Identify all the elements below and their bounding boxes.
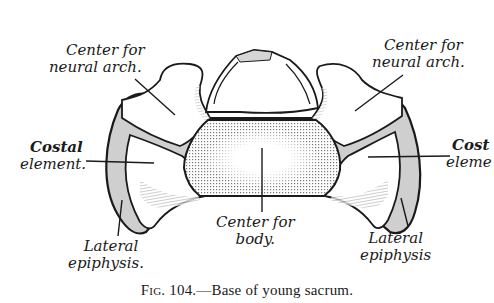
label-lateral-right-line1: Lateral <box>360 230 431 247</box>
label-lateral-right-line2: epiphysis <box>360 247 431 264</box>
label-costal-left-line1: Costal <box>20 139 86 156</box>
label-neural-arch-left-line1: Center for <box>46 42 145 59</box>
label-costal-left: Costal element. <box>20 139 86 173</box>
label-neural-arch-left: Center for neural arch. <box>46 42 145 76</box>
label-lateral-left-line1: Lateral <box>68 238 144 255</box>
caption-text: —Base of young sacrum. <box>196 282 353 298</box>
caption-number: 104. <box>169 282 196 298</box>
label-neural-arch-right-line1: Center for <box>372 37 465 54</box>
label-lateral-left-line2: epiphysis. <box>68 255 144 272</box>
label-body-center: Center for body. <box>216 214 295 248</box>
label-neural-arch-right-line2: neural arch. <box>372 54 465 71</box>
label-costal-right-line1: Cost <box>446 137 492 154</box>
caption-prefix: Fig. <box>141 282 166 298</box>
label-body-line1: Center for <box>216 214 295 231</box>
label-lateral-left: Lateral epiphysis. <box>68 238 144 272</box>
label-neural-arch-left-line2: neural arch. <box>46 59 145 76</box>
label-lateral-right: Lateral epiphysis <box>360 230 431 264</box>
vertebral-arch-top <box>206 50 318 113</box>
label-costal-right: Cost eleme <box>446 137 492 171</box>
label-costal-right-line2: eleme <box>446 154 492 171</box>
leader-costal-right <box>368 156 450 157</box>
figure-caption: Fig. 104.—Base of young sacrum. <box>0 282 494 299</box>
label-body-line2: body. <box>216 231 295 248</box>
sacrum-figure: Center for neural arch. Center for neura… <box>0 0 494 303</box>
label-neural-arch-right: Center for neural arch. <box>372 37 465 71</box>
label-costal-left-line2: element. <box>20 156 86 173</box>
